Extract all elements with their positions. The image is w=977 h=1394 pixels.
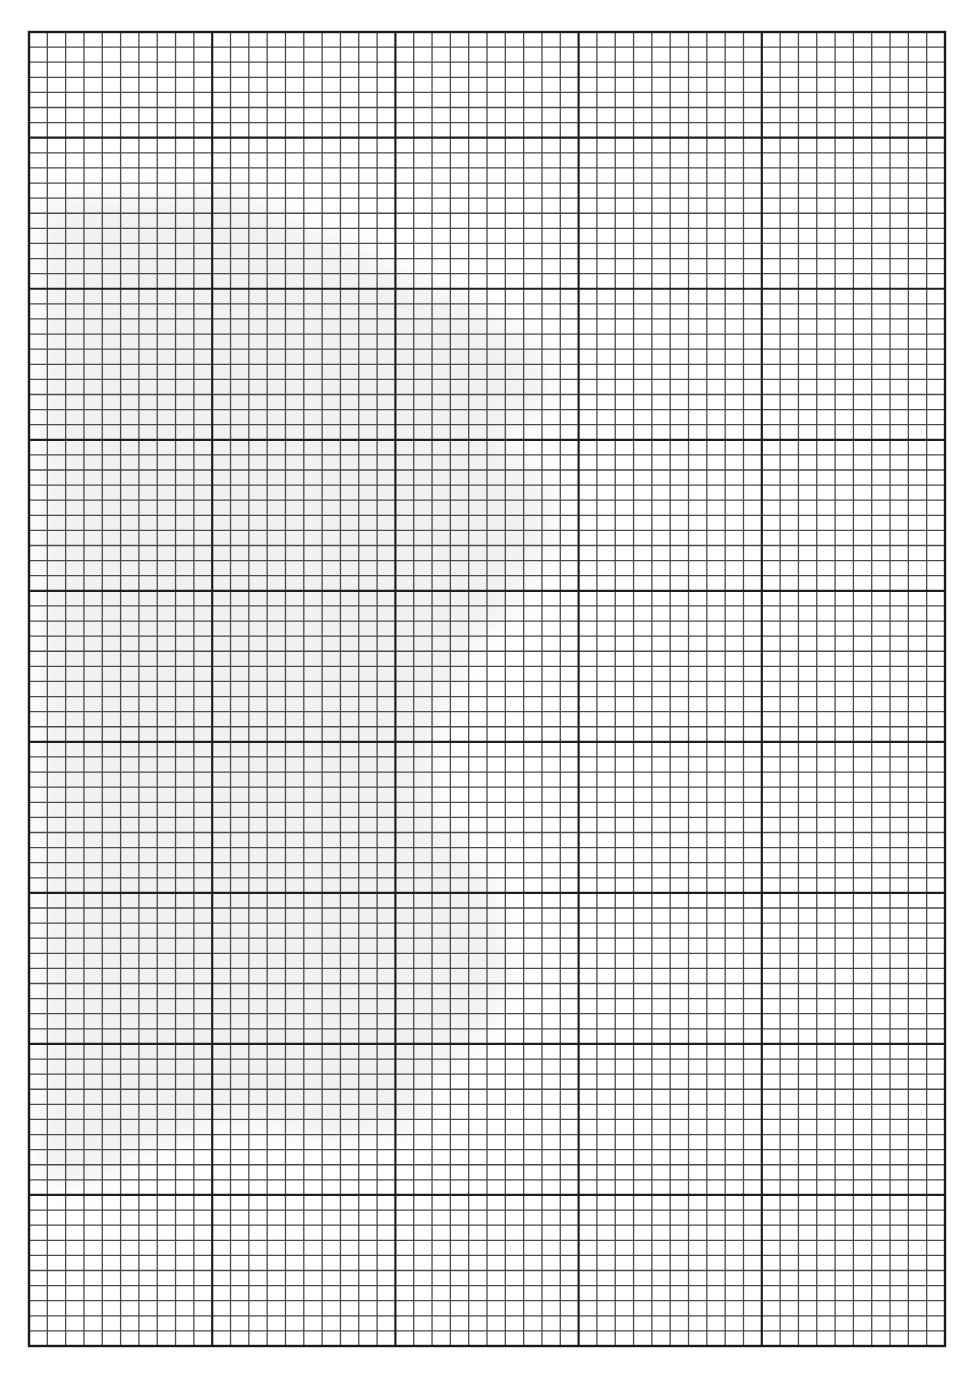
graph-paper-grid: [0, 0, 977, 1394]
graph-paper-page: [0, 0, 977, 1394]
minor-grid-lines: [29, 32, 945, 1346]
